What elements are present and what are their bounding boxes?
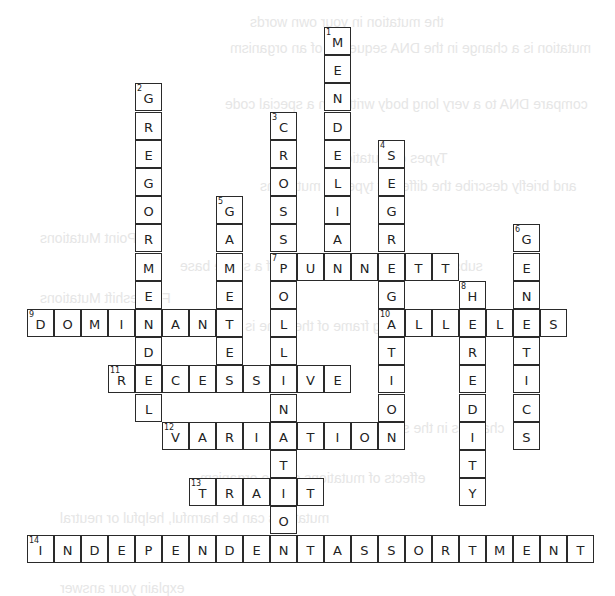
crossword-cell[interactable]: S [351, 535, 378, 563]
crossword-cell[interactable]: A [189, 422, 216, 450]
crossword-cell[interactable]: I [459, 422, 486, 450]
crossword-cell[interactable]: E [108, 535, 135, 563]
crossword-cell[interactable]: T [405, 253, 432, 281]
crossword-cell[interactable]: O [270, 168, 297, 196]
crossword-cell[interactable]: E [243, 535, 270, 563]
crossword-cell[interactable]: Y [459, 478, 486, 506]
crossword-cell[interactable]: T [297, 478, 324, 506]
crossword-cell[interactable]: E [459, 309, 486, 337]
crossword-cell[interactable]: T [459, 535, 486, 563]
crossword-cell[interactable]: 12V [162, 422, 189, 450]
crossword-cell[interactable]: O [378, 394, 405, 422]
crossword-cell[interactable]: E [324, 140, 351, 168]
crossword-cell[interactable]: 14I [27, 535, 54, 563]
crossword-cell[interactable]: R [459, 337, 486, 365]
crossword-cell[interactable]: N [135, 309, 162, 337]
crossword-cell[interactable]: E [135, 281, 162, 309]
crossword-cell[interactable]: N [270, 394, 297, 422]
crossword-cell[interactable]: 13T [189, 478, 216, 506]
crossword-cell[interactable]: L [486, 309, 513, 337]
crossword-cell[interactable]: S [378, 535, 405, 563]
crossword-cell[interactable]: O [270, 281, 297, 309]
crossword-cell[interactable]: E [378, 253, 405, 281]
crossword-cell[interactable]: E [216, 281, 243, 309]
crossword-cell[interactable]: T [513, 337, 540, 365]
crossword-cell[interactable]: T [297, 535, 324, 563]
crossword-cell[interactable]: N [270, 535, 297, 563]
crossword-cell[interactable]: D [81, 535, 108, 563]
crossword-cell[interactable]: S [243, 365, 270, 393]
crossword-cell[interactable]: L [432, 309, 459, 337]
crossword-cell[interactable]: A [270, 422, 297, 450]
crossword-cell[interactable]: V [297, 365, 324, 393]
crossword-cell[interactable]: G [135, 168, 162, 196]
crossword-cell[interactable]: A [162, 309, 189, 337]
crossword-cell[interactable]: T [378, 337, 405, 365]
crossword-cell[interactable]: N [351, 253, 378, 281]
crossword-cell[interactable]: T [270, 450, 297, 478]
crossword-cell[interactable]: M [216, 253, 243, 281]
crossword-cell[interactable]: R [270, 140, 297, 168]
crossword-cell[interactable]: I [378, 365, 405, 393]
crossword-cell[interactable]: L [135, 394, 162, 422]
crossword-cell[interactable]: A [243, 478, 270, 506]
crossword-cell[interactable]: E [513, 535, 540, 563]
crossword-cell[interactable]: E [513, 309, 540, 337]
crossword-cell[interactable]: 11R [108, 365, 135, 393]
crossword-cell[interactable]: C [513, 394, 540, 422]
crossword-cell[interactable]: L [270, 337, 297, 365]
crossword-cell[interactable]: C [162, 365, 189, 393]
crossword-cell[interactable]: D [459, 394, 486, 422]
crossword-cell[interactable]: D [216, 535, 243, 563]
crossword-cell[interactable]: N [513, 281, 540, 309]
crossword-cell[interactable]: G [378, 281, 405, 309]
crossword-cell[interactable]: A [324, 535, 351, 563]
crossword-cell[interactable]: L [270, 309, 297, 337]
crossword-cell[interactable]: I [324, 196, 351, 224]
crossword-cell[interactable]: N [189, 535, 216, 563]
crossword-cell[interactable]: 3C [270, 112, 297, 140]
crossword-cell[interactable]: T [297, 422, 324, 450]
crossword-cell[interactable]: S [216, 365, 243, 393]
crossword-cell[interactable]: R [135, 112, 162, 140]
crossword-cell[interactable]: O [135, 196, 162, 224]
crossword-cell[interactable]: D [135, 337, 162, 365]
crossword-cell[interactable]: L [324, 168, 351, 196]
crossword-cell[interactable]: E [378, 168, 405, 196]
crossword-cell[interactable]: 4S [378, 140, 405, 168]
crossword-cell[interactable]: T [567, 535, 594, 563]
crossword-cell[interactable]: S [540, 309, 567, 337]
crossword-cell[interactable]: E [513, 253, 540, 281]
crossword-cell[interactable]: E [216, 337, 243, 365]
crossword-cell[interactable]: U [297, 253, 324, 281]
crossword-cell[interactable]: 7P [270, 253, 297, 281]
crossword-cell[interactable]: I [243, 422, 270, 450]
crossword-cell[interactable]: A [324, 224, 351, 252]
crossword-cell[interactable]: E [135, 365, 162, 393]
crossword-cell[interactable]: S [270, 224, 297, 252]
crossword-cell[interactable]: I [324, 422, 351, 450]
crossword-cell[interactable]: 5G [216, 196, 243, 224]
crossword-cell[interactable]: N [324, 83, 351, 111]
crossword-cell[interactable]: R [378, 224, 405, 252]
crossword-cell[interactable]: N [324, 253, 351, 281]
crossword-cell[interactable]: R [216, 422, 243, 450]
crossword-cell[interactable]: I [270, 365, 297, 393]
crossword-cell[interactable]: 6G [513, 224, 540, 252]
crossword-cell[interactable]: M [135, 253, 162, 281]
crossword-cell[interactable]: S [270, 196, 297, 224]
crossword-cell[interactable]: S [513, 422, 540, 450]
crossword-cell[interactable]: E [162, 535, 189, 563]
crossword-cell[interactable]: E [324, 55, 351, 83]
crossword-cell[interactable]: A [216, 224, 243, 252]
crossword-cell[interactable]: O [351, 422, 378, 450]
crossword-cell[interactable]: N [540, 535, 567, 563]
crossword-cell[interactable]: 9D [27, 309, 54, 337]
crossword-cell[interactable]: 8H [459, 281, 486, 309]
crossword-cell[interactable]: O [270, 506, 297, 534]
crossword-cell[interactable]: N [189, 309, 216, 337]
crossword-cell[interactable]: T [459, 450, 486, 478]
crossword-cell[interactable]: I [513, 365, 540, 393]
crossword-cell[interactable]: M [486, 535, 513, 563]
crossword-cell[interactable]: O [405, 535, 432, 563]
